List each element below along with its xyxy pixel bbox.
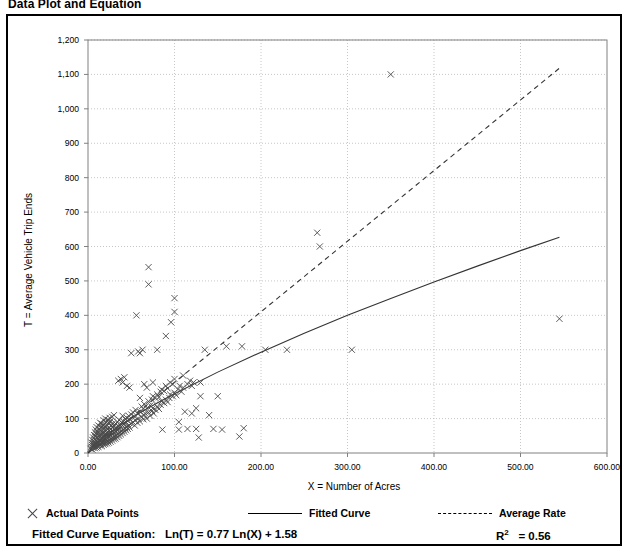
solid-line-icon [248, 513, 302, 514]
svg-text:200.00: 200.00 [248, 462, 275, 472]
legend-item-fitted-curve: Fitted Curve [248, 500, 370, 526]
svg-text:500: 500 [65, 276, 80, 286]
figure-frame: 01002003004005006007008009001,0001,1001,… [6, 14, 622, 546]
dashed-line-icon [438, 513, 492, 514]
x-marker-icon [26, 507, 39, 520]
chart-plot-area: 01002003004005006007008009001,0001,1001,… [8, 16, 620, 496]
svg-text:400.00: 400.00 [421, 462, 448, 472]
legend-label-fitted-curve: Fitted Curve [309, 507, 370, 519]
data-point-markers [87, 71, 562, 452]
svg-text:700: 700 [65, 207, 80, 217]
equation-prefix: Fitted Curve Equation: [32, 528, 155, 540]
x-axis-title: X = Number of Acres [308, 481, 401, 492]
legend-label-actual-data-points: Actual Data Points [46, 507, 139, 519]
svg-text:800: 800 [65, 173, 80, 183]
r-squared-number: = 0.56 [518, 530, 550, 542]
fitted-curve-line [88, 237, 559, 453]
fitted-curve-equation: Fitted Curve Equation: Ln(T) = 0.77 Ln(X… [32, 528, 297, 540]
svg-text:600.00: 600.00 [594, 462, 620, 472]
svg-text:600: 600 [65, 242, 80, 252]
svg-text:100: 100 [65, 414, 80, 424]
svg-text:900: 900 [65, 138, 80, 148]
svg-text:500.00: 500.00 [507, 462, 534, 472]
axis-ticks [84, 40, 607, 457]
r-squared-exponent: 2 [504, 528, 508, 537]
y-axis-tick-labels: 01002003004005006007008009001,0001,1001,… [57, 35, 79, 458]
svg-text:0.00: 0.00 [80, 462, 97, 472]
svg-text:200: 200 [65, 379, 80, 389]
legend-item-actual-data-points: Actual Data Points [26, 500, 139, 526]
legend-item-average-rate: Average Rate [438, 500, 566, 526]
svg-text:0: 0 [74, 448, 79, 458]
scatter-chart: 01002003004005006007008009001,0001,1001,… [8, 16, 620, 496]
svg-text:300.00: 300.00 [334, 462, 361, 472]
equation-row: Fitted Curve Equation: Ln(T) = 0.77 Ln(X… [8, 528, 620, 548]
svg-text:300: 300 [65, 345, 80, 355]
equation-formula: Ln(T) = 0.77 Ln(X) + 1.58 [165, 528, 297, 540]
svg-text:1,000: 1,000 [57, 104, 79, 114]
svg-text:400: 400 [65, 310, 80, 320]
svg-text:1,200: 1,200 [57, 35, 79, 45]
x-axis-tick-labels: 0.00100.00200.00300.00400.00500.00600.00 [80, 462, 620, 472]
page-title: Data Plot and Equation [8, 0, 142, 11]
y-axis-title: T = Average Vehicle Trip Ends [23, 193, 34, 327]
svg-text:100.00: 100.00 [161, 462, 188, 472]
chart-legend: Actual Data Points Fitted Curve Average … [8, 500, 620, 526]
legend-label-average-rate: Average Rate [499, 507, 566, 519]
r-squared-value: R2 = 0.56 [496, 528, 551, 542]
gridlines [88, 40, 607, 453]
svg-text:1,100: 1,100 [57, 69, 79, 79]
